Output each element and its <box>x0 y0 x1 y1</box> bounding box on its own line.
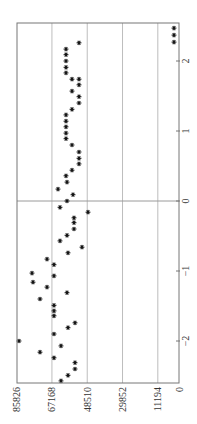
star-marker <box>64 131 69 135</box>
star-marker <box>31 280 36 284</box>
star-marker <box>66 373 71 377</box>
y-tick-label: 48510 <box>82 387 93 412</box>
star-marker <box>77 41 82 45</box>
star-marker <box>73 361 78 365</box>
y-tick-label: 29852 <box>117 387 128 412</box>
star-marker <box>70 89 75 93</box>
star-marker <box>65 199 70 203</box>
y-tick-label: 11194 <box>152 387 163 411</box>
star-marker <box>38 297 43 301</box>
star-marker <box>72 227 77 231</box>
star-marker <box>71 193 76 197</box>
y-tick-label: 85826 <box>11 387 22 412</box>
star-marker <box>59 344 64 348</box>
star-marker <box>73 367 78 371</box>
x-tick-label: 2 <box>180 59 191 64</box>
star-marker <box>72 216 77 220</box>
star-marker <box>77 83 82 87</box>
star-marker <box>64 113 69 117</box>
x-tick-label: 0 <box>180 199 191 204</box>
star-marker <box>66 326 71 330</box>
star-marker <box>77 150 82 154</box>
star-marker <box>45 285 50 289</box>
x-tick-label: −1 <box>180 266 191 277</box>
x-tick-label: 1 <box>180 129 191 134</box>
star-marker <box>38 350 43 354</box>
data-points <box>17 26 177 383</box>
star-marker <box>65 291 70 295</box>
star-marker <box>70 168 75 172</box>
star-marker <box>70 77 75 81</box>
star-marker <box>58 239 63 243</box>
x-tick-label: −2 <box>180 336 191 347</box>
y-tick-label: 67168 <box>46 387 57 412</box>
star-marker <box>64 59 69 63</box>
star-marker <box>56 187 61 191</box>
star-marker <box>86 210 91 214</box>
x-axis-ticks: −2−1012 <box>176 59 191 347</box>
star-marker <box>65 233 70 237</box>
star-marker <box>172 33 177 37</box>
star-marker <box>73 321 78 325</box>
plot-frame <box>17 23 179 383</box>
star-marker <box>80 245 85 249</box>
star-marker <box>64 47 69 51</box>
star-marker <box>64 71 69 75</box>
star-marker <box>66 251 71 255</box>
star-marker <box>77 101 82 105</box>
star-marker <box>77 162 82 166</box>
star-marker <box>77 95 82 99</box>
star-marker <box>58 205 63 209</box>
star-marker <box>59 379 64 383</box>
star-marker <box>70 143 75 147</box>
gridlines <box>17 23 179 383</box>
star-marker <box>30 271 35 275</box>
star-marker <box>64 119 69 123</box>
star-marker <box>70 107 75 111</box>
star-marker <box>45 257 50 261</box>
y-axis-ticks: 01119429852485106716885826 <box>11 387 184 412</box>
scatter-chart: −2−1012 01119429852485106716885826 <box>0 0 197 424</box>
star-marker <box>65 180 70 184</box>
star-marker <box>64 137 69 141</box>
star-marker <box>77 156 82 160</box>
star-marker <box>64 174 69 178</box>
star-marker <box>64 65 69 69</box>
star-marker <box>64 53 69 57</box>
y-tick-label: 0 <box>174 387 185 392</box>
star-marker <box>64 125 69 129</box>
star-marker <box>77 77 82 81</box>
star-marker <box>172 26 177 30</box>
star-marker <box>72 221 77 225</box>
star-marker <box>172 40 177 44</box>
